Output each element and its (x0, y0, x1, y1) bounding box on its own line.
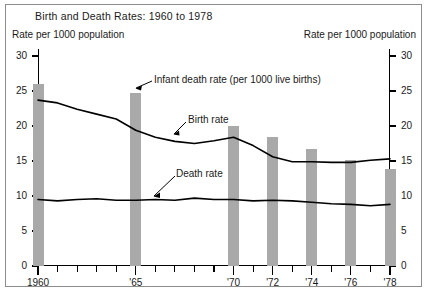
x-tick-1978 (389, 266, 390, 275)
y-tick-right-15 (390, 160, 396, 161)
right-axis-caption: Rate per 1000 population (304, 29, 416, 40)
y-label-right-10: 10 (401, 191, 412, 201)
x-tick-1973 (292, 266, 293, 272)
chart-title: Birth and Death Rates: 1960 to 1978 (35, 10, 212, 22)
plot-area: 051015202530 051015202530 1960'65'70'72'… (38, 56, 390, 266)
x-tick-1966 (155, 266, 156, 272)
x-tick-1976 (350, 266, 351, 275)
x-tick-1974 (311, 266, 312, 275)
x-tick-1969 (213, 266, 214, 272)
y-tick-right-20 (390, 125, 396, 126)
y-label-left-30: 30 (16, 51, 27, 61)
left-axis-caption: Rate per 1000 population (12, 29, 124, 40)
line-birth-rate (38, 100, 390, 162)
x-label-1974: '74 (305, 278, 318, 288)
x-tick-1962 (77, 266, 78, 272)
chart-figure: Birth and Death Rates: 1960 to 1978 Rate… (0, 0, 428, 294)
line-death-rate (38, 198, 390, 206)
y-label-left-5: 5 (21, 226, 27, 236)
y-label-right-5: 5 (401, 226, 407, 236)
x-label-1972: '72 (266, 278, 279, 288)
left-axis-cap (38, 49, 39, 56)
x-tick-1967 (174, 266, 175, 272)
y-label-right-15: 15 (401, 156, 412, 166)
x-tick-1964 (116, 266, 117, 272)
x-tick-1970 (233, 266, 234, 275)
x-tick-1977 (370, 266, 371, 272)
x-label-1970: '70 (227, 278, 240, 288)
x-label-1965: '65 (129, 278, 142, 288)
x-tick-1961 (57, 266, 58, 272)
x-tick-1972 (272, 266, 273, 275)
x-tick-1963 (96, 266, 97, 272)
y-label-right-20: 20 (401, 121, 412, 131)
x-tick-1960 (37, 266, 38, 275)
y-label-left-10: 10 (16, 191, 27, 201)
y-label-right-30: 30 (401, 51, 412, 61)
y-tick-right-30 (390, 55, 396, 56)
x-tick-1971 (253, 266, 254, 272)
annotation-death-rate: Death rate (176, 168, 223, 179)
x-label-1960: 1960 (27, 278, 49, 288)
y-label-left-15: 15 (16, 156, 27, 166)
y-label-left-25: 25 (16, 86, 27, 96)
x-label-1976: '76 (344, 278, 357, 288)
y-label-left-20: 20 (16, 121, 27, 131)
x-tick-1965 (135, 266, 136, 275)
x-tick-1975 (331, 266, 332, 272)
y-label-right-0: 0 (401, 261, 407, 271)
annotation-infant-death-rate: Infant death rate (per 1000 live births) (154, 74, 321, 85)
x-tick-1968 (194, 266, 195, 272)
y-tick-right-25 (390, 90, 396, 91)
annotation-birth-rate: Birth rate (188, 114, 229, 125)
y-label-right-25: 25 (401, 86, 412, 96)
x-label-1978: '78 (383, 278, 396, 288)
y-label-left-0: 0 (21, 261, 27, 271)
line-series-layer (38, 56, 390, 266)
